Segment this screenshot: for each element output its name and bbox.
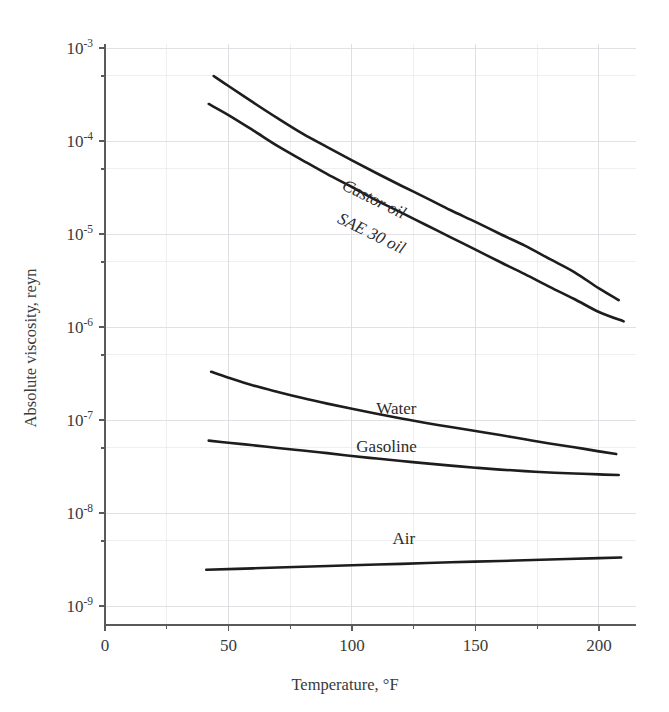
x-tick-label: 200 <box>586 636 612 655</box>
curve-label-air: Air <box>393 529 416 548</box>
chart-container: 050100150200 10-310-410-510-610-710-810-… <box>0 0 669 712</box>
major-gridlines <box>105 44 636 625</box>
tick-marks <box>99 48 599 631</box>
y-tick-label: 10-8 <box>66 502 93 523</box>
x-tick-label: 100 <box>339 636 365 655</box>
curve-labels: Castor oilSAE 30 oilWaterGasolineAir <box>335 176 417 549</box>
x-tick-labels: 050100150200 <box>101 636 612 655</box>
y-tick-labels: 10-310-410-510-610-710-810-9 <box>66 37 93 616</box>
axes <box>105 44 636 625</box>
y-tick-label: 10-5 <box>66 223 93 244</box>
curve-label-gasoline: Gasoline <box>356 437 416 456</box>
y-tick-label: 10-9 <box>66 595 93 616</box>
data-curves <box>206 76 623 570</box>
y-tick-label: 10-3 <box>66 37 93 58</box>
viscosity-log-chart: 050100150200 10-310-410-510-610-710-810-… <box>0 0 669 712</box>
y-tick-label: 10-4 <box>66 130 93 151</box>
curve-label-water: Water <box>376 399 416 418</box>
y-tick-label: 10-7 <box>66 409 93 430</box>
x-tick-label: 150 <box>463 636 489 655</box>
y-tick-label: 10-6 <box>66 316 93 337</box>
x-tick-label: 0 <box>101 636 110 655</box>
curve-castor-oil <box>214 76 619 300</box>
y-axis-title: Absolute viscosity, reyn <box>21 269 40 428</box>
x-tick-label: 50 <box>220 636 237 655</box>
curve-sae-30-oil <box>209 104 624 321</box>
minor-gridlines <box>105 44 636 625</box>
x-axis-title: Temperature, °F <box>291 675 398 694</box>
